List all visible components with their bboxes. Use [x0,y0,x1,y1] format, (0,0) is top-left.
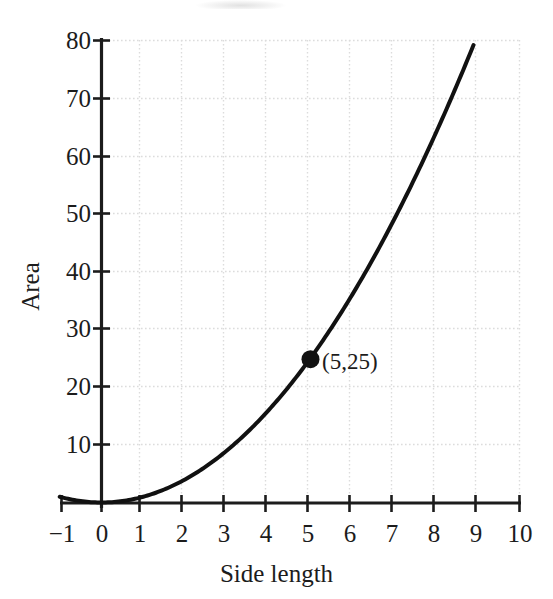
x-tick-label-7: 7 [368,521,416,546]
grid-lines-horizontal [101,41,521,445]
y-tick-label-20: 20 [47,374,91,399]
x-axis-title: Side length [0,561,553,586]
y-axis-title: Area [18,245,43,329]
x-tick-label-6: 6 [326,521,374,546]
y-tick-label-30: 30 [47,316,91,341]
y-tick-label-60: 60 [47,144,91,169]
y-tick-label-80: 80 [47,28,91,53]
x-tick-label-4: 4 [242,521,290,546]
x-tick-label-9: 9 [452,521,500,546]
y-tick-label-50: 50 [47,201,91,226]
x-tick-label-5: 5 [284,521,332,546]
x-tick-label-10: 10 [494,521,546,546]
y-tick-label-10: 10 [47,432,91,457]
x-tick-label-2: 2 [158,521,206,546]
chart-figure: 80 70 60 50 40 30 20 10 −1 0 1 2 3 4 5 6… [0,0,553,599]
x-tick-label-8: 8 [410,521,458,546]
data-series-curve [60,45,474,502]
data-point-marker [302,350,320,368]
y-tick-label-40: 40 [47,259,91,284]
y-tick-label-70: 70 [47,86,91,111]
axis-lines [60,38,521,508]
data-point-annotation-label: (5,25) [322,350,378,373]
x-tick-label-3: 3 [200,521,248,546]
x-tick-label-1: 1 [116,521,164,546]
